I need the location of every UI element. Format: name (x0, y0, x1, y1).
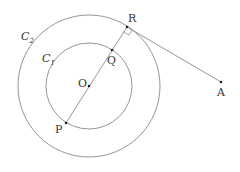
point-a (220, 81, 223, 84)
line-pr (66, 27, 127, 123)
label-p: P (55, 123, 63, 136)
geometry-diagram: C2 C1 O Q R P A (0, 0, 240, 172)
label-q: Q (107, 54, 116, 67)
label-c1: C1 (42, 52, 55, 67)
label-c2: C2 (21, 30, 34, 45)
tangent-ra (127, 27, 221, 82)
label-a: A (216, 86, 226, 99)
point-q (111, 49, 114, 52)
label-o: O (78, 77, 87, 90)
point-r (126, 26, 129, 29)
point-p (65, 122, 68, 125)
point-o (88, 85, 91, 88)
label-r: R (128, 12, 137, 25)
